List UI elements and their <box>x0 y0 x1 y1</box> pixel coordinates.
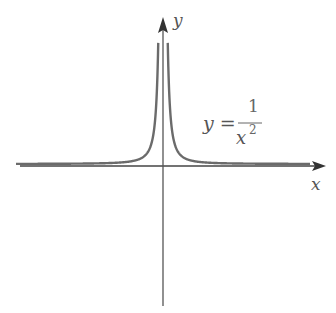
equation-lhs: y = <box>202 112 236 134</box>
curve-left-branch <box>16 43 158 164</box>
equation-denominator: x <box>236 127 246 148</box>
equation-exponent: 2 <box>249 123 257 137</box>
equation-numerator: 1 <box>248 96 259 116</box>
x-axis-label: x <box>311 174 321 194</box>
equation-annotation: y = 1 x 2 <box>202 96 262 148</box>
y-axis-label: y <box>172 10 183 30</box>
plot-area: y x y = 1 x 2 <box>0 0 336 313</box>
